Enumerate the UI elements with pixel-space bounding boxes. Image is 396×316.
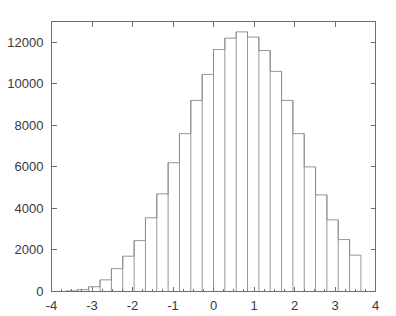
histogram-figure: -4-3-2-101234 02000400060008000100001200… — [0, 0, 396, 316]
x-tick-label: 0 — [210, 298, 217, 313]
y-tick-label: 8000 — [15, 118, 44, 133]
x-tick-label: -2 — [127, 298, 139, 313]
y-tick-label: 12000 — [7, 35, 43, 50]
histogram-bars — [66, 32, 361, 292]
x-tick-label: 1 — [250, 298, 257, 313]
x-tick-label: 3 — [331, 298, 338, 313]
histogram-plot: -4-3-2-101234 02000400060008000100001200… — [0, 0, 396, 316]
x-axis-tick-labels: -4-3-2-101234 — [46, 298, 379, 313]
y-tick-label: 2000 — [15, 242, 44, 257]
x-tick-label: 4 — [372, 298, 379, 313]
x-tick-label: -4 — [46, 298, 58, 313]
y-tick-label: 6000 — [15, 159, 44, 174]
y-tick-label: 0 — [36, 284, 43, 299]
x-tick-label: -1 — [167, 298, 179, 313]
x-tick-label: 2 — [291, 298, 298, 313]
y-tick-label: 10000 — [7, 76, 43, 91]
y-tick-label: 4000 — [15, 201, 44, 216]
y-axis-tick-labels: 020004000600080001000012000 — [7, 35, 43, 299]
x-tick-label: -3 — [86, 298, 98, 313]
